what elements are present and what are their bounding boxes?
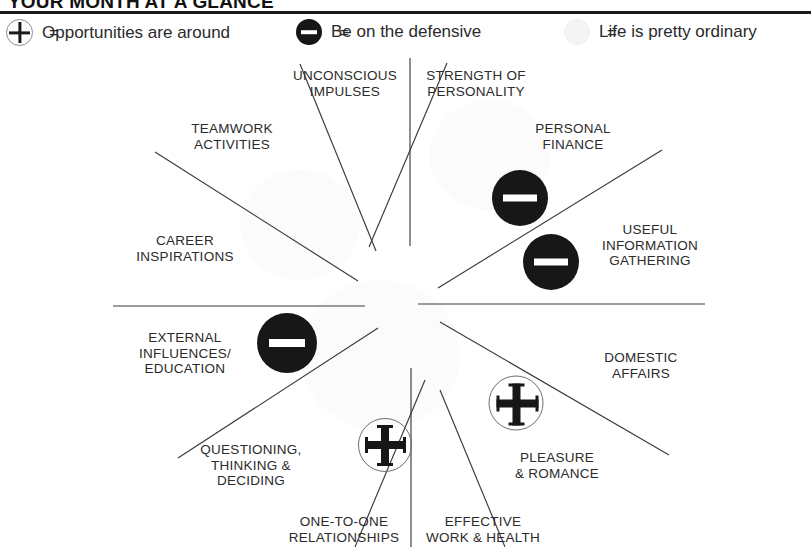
sector-label-line: EXTERNAL <box>139 330 231 346</box>
sector-label-career-inspirations: CAREERINSPIRATIONS <box>136 233 233 264</box>
plus-horizontal-arm-icon <box>365 441 406 449</box>
sector-label-line: CAREER <box>136 233 233 249</box>
sector-label-line: EFFECTIVE <box>426 514 540 530</box>
sector-label-line: PERSONAL <box>535 121 611 137</box>
sector-label-line: GATHERING <box>602 253 698 269</box>
sector-label-pleasure-and-romance: PLEASURE& ROMANCE <box>515 450 599 481</box>
sector-label-line: DOMESTIC <box>604 350 677 366</box>
sector-label-effective-work-and-health: EFFECTIVEWORK & HEALTH <box>426 514 540 545</box>
sector-label-personal-finance: PERSONALFINANCE <box>535 121 611 152</box>
sector-label-questioning-thinking-deciding: QUESTIONING,THINKING &DECIDING <box>200 442 301 489</box>
sector-label-line: EDUCATION <box>139 361 231 377</box>
marker-one-to-one-relationships <box>358 418 412 472</box>
sector-label-line: ACTIVITIES <box>191 136 273 152</box>
sector-label-line: ONE-TO-ONE <box>289 514 399 530</box>
marker-personal-finance <box>492 170 548 226</box>
sector-label-line: WORK & HEALTH <box>426 529 540 545</box>
sector-label-line: & ROMANCE <box>515 465 599 481</box>
sector-label-line: TEAMWORK <box>191 121 273 137</box>
sector-label-one-to-one-relationships: ONE-TO-ONERELATIONSHIPS <box>289 514 399 545</box>
sector-label-domestic-affairs: DOMESTICAFFAIRS <box>604 350 677 381</box>
minus-bar-icon <box>534 259 568 266</box>
sector-label-line: DECIDING <box>200 473 301 489</box>
minus-bar-icon <box>269 339 305 347</box>
sector-label-teamwork-activities: TEAMWORKACTIVITIES <box>191 121 273 152</box>
sector-label-line: QUESTIONING, <box>200 442 301 458</box>
sector-label-line: AFFAIRS <box>604 365 677 381</box>
sector-label-line: IMPULSES <box>293 83 397 99</box>
sector-label-line: PLEASURE <box>515 450 599 466</box>
legend-item-label: Be on the defensive <box>331 22 481 42</box>
sector-label-line: INFORMATION <box>602 237 698 253</box>
page-root: YOUR MONTH AT A GLANCE Opportunities are… <box>0 0 811 547</box>
sector-label-line: USEFUL <box>602 222 698 238</box>
minus-bar-icon <box>503 195 537 202</box>
month-at-a-glance-wheel: STRENGTH OFPERSONALITYPERSONALFINANCEUSE… <box>0 40 811 547</box>
sector-label-line: RELATIONSHIPS <box>289 529 399 545</box>
wheel-spokes <box>0 40 811 547</box>
sector-label-strength-of-personality: STRENGTH OFPERSONALITY <box>426 68 526 99</box>
marker-external-influences <box>257 313 317 373</box>
title-divider <box>0 11 811 14</box>
sector-label-line: UNCONSCIOUS <box>293 68 397 84</box>
marker-pleasure-and-romance <box>489 376 544 431</box>
spoke-lower-right-outer <box>440 322 669 455</box>
sector-label-useful-information-gathering: USEFULINFORMATIONGATHERING <box>602 222 698 269</box>
sector-label-line: THINKING & <box>200 457 301 473</box>
legend-item-label: Life is pretty ordinary <box>599 22 757 42</box>
sector-label-external-influences-education: EXTERNALINFLUENCES/EDUCATION <box>139 330 231 377</box>
marker-useful-information <box>523 234 579 290</box>
sector-label-line: PERSONALITY <box>426 83 526 99</box>
sector-label-unconscious-impulses: UNCONSCIOUSIMPULSES <box>293 68 397 99</box>
sector-label-line: INSPIRATIONS <box>136 248 233 264</box>
sector-label-line: INFLUENCES/ <box>139 345 231 361</box>
sector-label-line: FINANCE <box>535 136 611 152</box>
sector-label-line: STRENGTH OF <box>426 68 526 84</box>
plus-horizontal-arm-icon <box>497 399 539 407</box>
